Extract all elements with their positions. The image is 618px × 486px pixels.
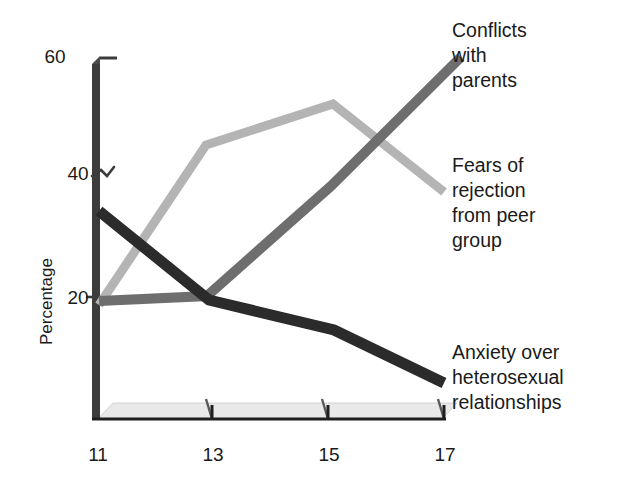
x-tick-label-13: 13 — [202, 444, 223, 465]
y-axis — [86, 56, 117, 419]
series-label-conflicts-with-parents: Conflicts with parents — [452, 18, 612, 93]
floor-plane — [98, 403, 457, 424]
chart-figure: Percentage 60 40 20 11 13 15 17 Conflict… — [0, 0, 618, 486]
x-tick-label-17: 17 — [434, 444, 455, 465]
series-line-conflicts — [99, 57, 461, 301]
y-tick-label-40: 40 — [67, 163, 88, 184]
y-axis-title: Percentage — [37, 258, 56, 345]
y-tick-label-20: 20 — [67, 287, 88, 308]
series-label-anxiety-heterosexual-relationships: Anxiety over heterosexual relationships — [452, 340, 617, 415]
series-line-fears — [99, 104, 444, 305]
y-tick-label-60: 60 — [44, 46, 65, 67]
x-tick-label-11: 11 — [88, 444, 108, 465]
series-label-fears-of-rejection: Fears of rejection from peer group — [452, 153, 614, 253]
x-tick-label-15: 15 — [318, 444, 339, 465]
